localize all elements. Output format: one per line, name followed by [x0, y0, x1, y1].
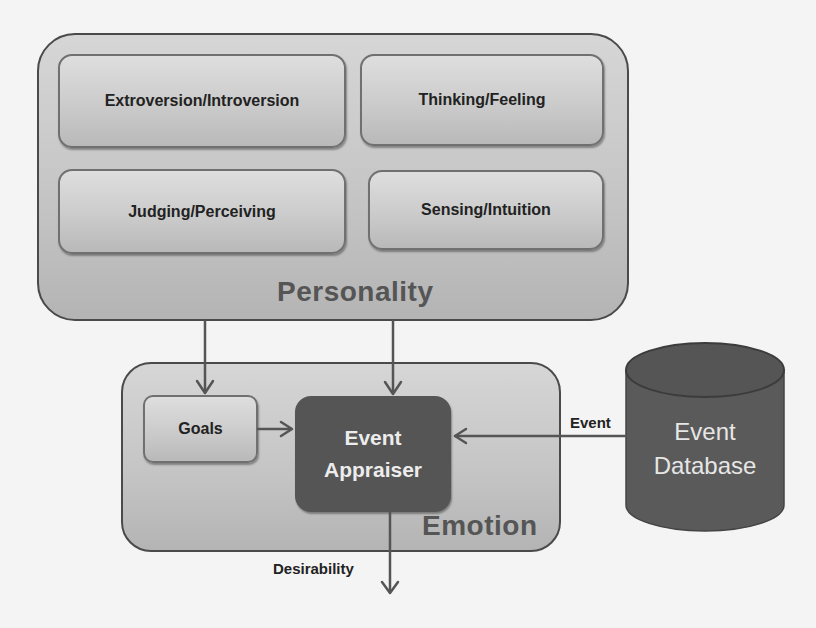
event-edge-label: Event — [570, 414, 611, 431]
desirability-edge-label: Desirability — [273, 560, 354, 577]
connectors — [0, 0, 816, 628]
